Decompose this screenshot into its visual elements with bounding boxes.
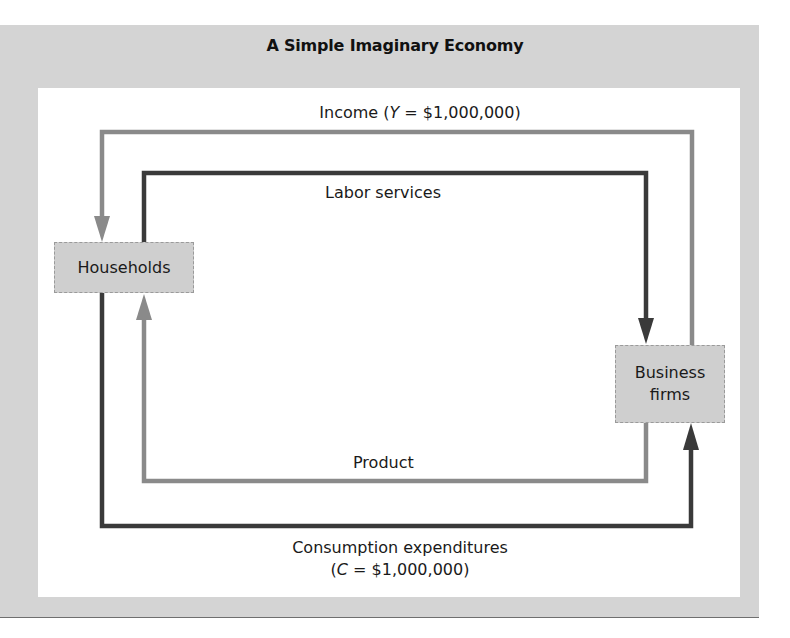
business-label-line2: firms	[650, 384, 690, 406]
consumption-value-label: (C = $1,000,000)	[0, 560, 790, 579]
labor-arrowhead-icon	[638, 318, 654, 344]
business-firms-node: Business firms	[615, 345, 725, 423]
product-arrowhead-icon	[136, 294, 152, 320]
income-label: Income (Y = $1,000,000)	[0, 103, 790, 122]
income-arrowhead-icon	[94, 216, 110, 242]
labor-services-label: Labor services	[325, 183, 441, 202]
consumption-label: Consumption expenditures	[0, 538, 790, 557]
product-label: Product	[353, 453, 414, 472]
consumption-arrowhead-icon	[683, 423, 699, 450]
households-label: Households	[77, 257, 170, 279]
households-node: Households	[54, 242, 194, 293]
business-label-line1: Business	[635, 362, 706, 384]
income-flow-line	[102, 132, 692, 345]
consumption-flow-line	[102, 292, 691, 526]
